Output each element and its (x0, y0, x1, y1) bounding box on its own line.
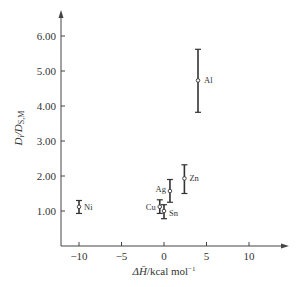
marker-open-circle-icon (77, 205, 81, 209)
marker-open-circle-icon (162, 209, 166, 213)
y-tick-label: 1.00 (37, 205, 57, 217)
x-axis-title: ΔH̄/kcal mol−1 (131, 265, 196, 277)
data-point-al: Al (195, 49, 213, 112)
x-tick-label: −5 (116, 250, 128, 262)
y-tick-label: 6.00 (37, 30, 57, 42)
x-ticks: −10−50510 (70, 242, 255, 262)
point-label: Al (204, 75, 213, 85)
scatter-chart: 1.002.003.004.005.006.00 −10−50510 NiCuS… (0, 0, 305, 287)
data-point-sn: Sn (161, 205, 179, 219)
y-tick-label: 5.00 (37, 65, 57, 77)
point-label: Ni (84, 202, 93, 212)
data-point-cu: Cu (146, 200, 163, 214)
data-point-ag: Ag (156, 180, 173, 203)
point-label: Sn (169, 208, 179, 218)
x-tick-label: −10 (70, 250, 88, 262)
x-tick-label: 0 (161, 250, 167, 262)
x-tick-label: 10 (244, 250, 256, 262)
y-axis-arrow-icon (59, 10, 64, 18)
data-point-ni: Ni (76, 201, 93, 214)
data-points: NiCuSnAgZnAl (76, 49, 213, 218)
data-point-zn: Zn (181, 165, 199, 194)
point-label: Ag (156, 184, 167, 194)
y-tick-label: 3.00 (37, 135, 57, 147)
marker-open-circle-icon (158, 205, 162, 209)
point-label: Zn (189, 173, 199, 183)
marker-open-circle-icon (183, 177, 187, 181)
x-tick-label: 5 (204, 250, 210, 262)
y-tick-label: 2.00 (37, 170, 57, 182)
marker-open-circle-icon (168, 189, 172, 193)
x-axis-arrow-icon (281, 244, 289, 249)
point-label: Cu (146, 202, 157, 212)
marker-open-circle-icon (196, 79, 200, 83)
y-axis-title: Di/DS,M (12, 111, 26, 147)
y-tick-label: 4.00 (37, 100, 57, 112)
